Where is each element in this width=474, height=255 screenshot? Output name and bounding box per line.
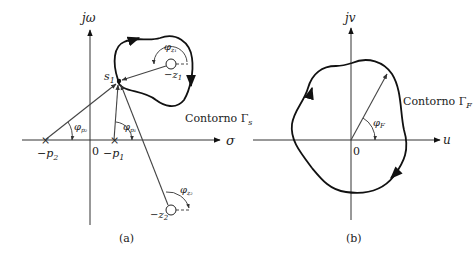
caption-a: (a) — [119, 232, 134, 245]
phi-p2-arc — [68, 122, 72, 140]
pole-p2-marker: × — [41, 134, 50, 147]
caption-b: (b) — [346, 232, 362, 245]
u-axis-label: u — [443, 133, 451, 147]
nyquist-mapping-figure: jω σ 0 Contorno Γs s1 −z1 φz₁ × −p2 φp₂ … — [0, 0, 474, 255]
vector-f — [351, 74, 387, 140]
contour-gamma-f-label: Contorno ΓF — [403, 95, 472, 110]
panel-b: jv u 0 Contorno ΓF φF (b) — [253, 11, 472, 245]
zero-z1-label: −z1 — [164, 69, 182, 82]
phi-p2-label: φp₂ — [74, 121, 88, 134]
pole-p2-label: −p2 — [37, 147, 58, 162]
panel-a: jω σ 0 Contorno Γs s1 −z1 φz₁ × −p2 φp₂ … — [22, 11, 252, 245]
contour-gamma-s-label: Contorno Γs — [185, 112, 252, 127]
contour-f-arrow-left — [310, 88, 312, 95]
phi-z2-label: φz₂ — [180, 184, 193, 196]
vector-z1-to-s1 — [122, 66, 166, 80]
phi-z1-label: φz₁ — [164, 41, 177, 53]
origin-label-a: 0 — [92, 145, 99, 158]
origin-label-b: 0 — [353, 145, 360, 158]
contour-gamma-s — [115, 36, 193, 106]
contour-gamma-f — [292, 60, 407, 193]
jw-axis-label: jω — [79, 11, 96, 25]
point-s1-label: s1 — [104, 70, 115, 85]
point-s1 — [117, 79, 121, 83]
sigma-axis-label: σ — [226, 133, 236, 148]
phi-f-label: φF — [373, 117, 386, 130]
vector-p1-to-s1 — [114, 85, 118, 140]
zero-z1-marker — [166, 59, 176, 69]
pole-p1-label: −p1 — [103, 147, 124, 162]
phi-p1-label: φp₁ — [123, 121, 136, 134]
jv-axis-label: jv — [342, 11, 356, 25]
